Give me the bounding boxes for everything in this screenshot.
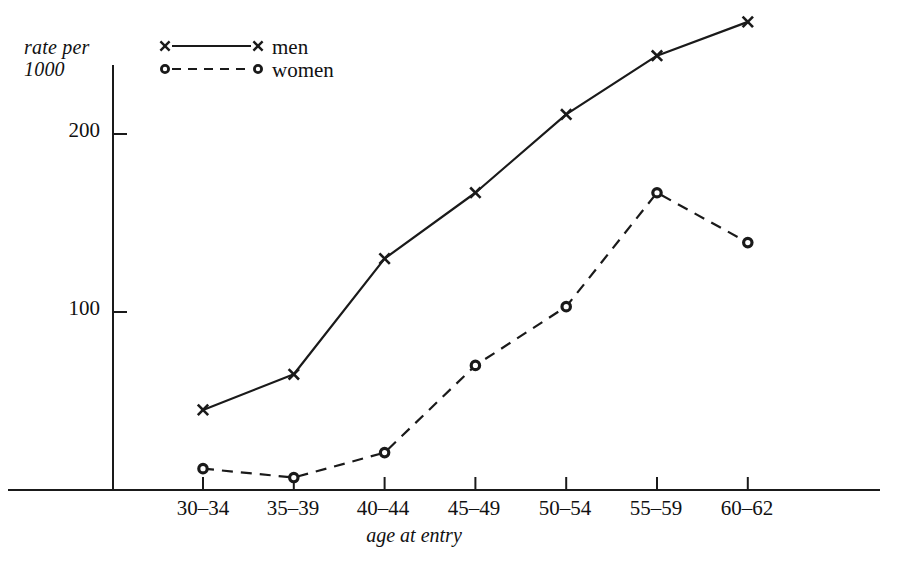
legend-samples	[160, 41, 262, 72]
x-axis-ticks	[203, 477, 748, 490]
plot-area	[0, 0, 908, 575]
series-line-women	[203, 193, 748, 478]
series-markers-men	[198, 17, 753, 415]
series-markers-women	[199, 189, 752, 482]
y-axis-ticks	[113, 134, 127, 312]
chart-figure: rate per 1000 200 100 30–34 35–39 40–44 …	[0, 0, 908, 575]
series-line-men	[203, 22, 748, 410]
